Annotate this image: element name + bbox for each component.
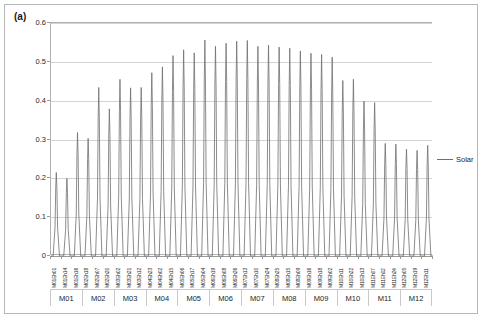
x-axis-hour-label: M10Eh11 <box>339 268 344 288</box>
x-axis-tick-mark <box>167 256 168 259</box>
x-axis-hour-label: M09Eh18 <box>318 268 323 288</box>
x-axis-tick-mark <box>241 256 242 259</box>
x-axis-hour-label: M05Eh17 <box>190 268 195 288</box>
x-axis-tick-mark <box>199 256 200 259</box>
x-axis-hour-label: M06Eh26 <box>233 268 238 288</box>
month-group-m12: M12 <box>400 290 432 306</box>
x-axis-tick-mark <box>230 256 231 259</box>
y-axis-tick-label: 0.5 <box>36 56 46 65</box>
x-axis-hour-label: M10Eh22 <box>349 268 354 288</box>
x-axis-hour-label: M02Eh20 <box>105 268 110 288</box>
x-axis-hour-label: M02Eh18 <box>84 268 89 288</box>
month-group-label: M03 <box>123 294 138 303</box>
y-axis-tick-label: 0.3 <box>36 134 46 143</box>
x-axis-tick-mark <box>252 256 253 259</box>
x-axis-hour-label: M04Eh23 <box>148 268 153 288</box>
month-group-label: M01 <box>59 294 74 303</box>
x-axis-hour-label: M09Eh16 <box>307 268 312 288</box>
x-axis-hour-label: M01Eh01 <box>52 268 57 288</box>
x-axis-tick-mark <box>209 256 210 259</box>
x-axis-tick-mark <box>294 256 295 259</box>
x-axis-tick-mark <box>432 256 433 259</box>
x-axis-hour-label: M12Eh11 <box>424 268 429 288</box>
x-axis-hour-label: M11Eh07 <box>371 268 376 288</box>
x-axis-tick-mark <box>146 256 147 259</box>
month-group-label: M10 <box>346 294 361 303</box>
x-axis-hour-label: M01Eh14 <box>63 268 68 288</box>
month-group-label: M08 <box>282 294 297 303</box>
month-group-m07: M07 <box>241 290 273 306</box>
x-axis-tick-mark <box>177 256 178 259</box>
x-axis-hour-label: M06Eh19 <box>211 268 216 288</box>
x-axis-tick-mark <box>283 256 284 259</box>
month-group-m06: M06 <box>209 290 241 306</box>
x-axis-tick-mark <box>220 256 221 259</box>
x-axis-tick-mark <box>188 256 189 259</box>
month-group-m01: M01 <box>50 290 82 306</box>
x-axis-hour-label: M10Eh13 <box>360 268 365 288</box>
x-axis-tick-mark <box>135 256 136 259</box>
x-axis-hour-labels: M01Eh01M01Eh14M01Eh16M02Eh18M02Eh07M02Eh… <box>50 256 432 288</box>
x-axis-hour-label: M03Eh02 <box>116 268 121 288</box>
x-axis-tick-mark <box>50 256 51 259</box>
x-axis-hour-label: M04Eh15 <box>169 268 174 288</box>
x-axis-tick-mark <box>114 256 115 259</box>
x-axis-hour-label: M08Eh09 <box>296 268 301 288</box>
x-axis-tick-mark <box>103 256 104 259</box>
x-axis-hour-label: M06Eh08 <box>222 268 227 288</box>
month-group-label: M12 <box>409 294 424 303</box>
x-axis-tick-mark <box>92 256 93 259</box>
x-axis-hour-label: M03Eh12 <box>137 268 142 288</box>
x-axis-hour-label: M12Eh19 <box>413 268 418 288</box>
figure-container: (a) 00.10.20.30.40.50.6 M01Eh01M01Eh14M0… <box>0 0 484 320</box>
x-axis-tick-mark <box>82 256 83 259</box>
x-axis-tick-mark <box>156 256 157 259</box>
month-group-m09: M09 <box>305 290 337 306</box>
panel-label: (a) <box>14 11 26 22</box>
month-group-m11: M11 <box>368 290 400 306</box>
x-axis-month-groups: M01M02M03M04M05M06M07M08M09M10M11M12 <box>50 289 432 306</box>
x-axis-tick-mark <box>379 256 380 259</box>
solar-line-path <box>51 40 433 256</box>
x-axis-tick-mark <box>315 256 316 259</box>
x-axis-hour-label: M11Eh02 <box>381 268 386 288</box>
x-axis-hour-label: M03Eh21 <box>127 268 132 288</box>
x-axis-tick-mark <box>326 256 327 259</box>
x-axis-tick-mark <box>347 256 348 259</box>
month-group-label: M05 <box>186 294 201 303</box>
y-axis-tick-label: 0.6 <box>36 18 46 27</box>
x-axis-hour-label: M01Eh16 <box>74 268 79 288</box>
month-group-m10: M10 <box>337 290 369 306</box>
x-axis-tick-mark <box>411 256 412 259</box>
x-axis-tick-mark <box>61 256 62 259</box>
x-axis-hour-label: M12Eh05 <box>402 268 407 288</box>
month-group-label: M07 <box>250 294 265 303</box>
y-axis-tick-label: 0 <box>42 251 46 260</box>
x-axis-hour-label: M07Eh10 <box>254 268 259 288</box>
solar-series-line <box>51 23 433 256</box>
legend-line-swatch <box>437 159 453 160</box>
y-axis-tick-label: 0.2 <box>36 173 46 182</box>
x-axis-hour-label: M08Eh25 <box>275 268 280 288</box>
x-axis-tick-mark <box>273 256 274 259</box>
x-axis-tick-mark <box>358 256 359 259</box>
x-axis-tick-mark <box>305 256 306 259</box>
x-axis-hour-label: M11Eh24 <box>392 268 397 288</box>
x-axis-tick-mark <box>421 256 422 259</box>
month-group-m02: M02 <box>82 290 114 306</box>
x-axis-tick-mark <box>390 256 391 259</box>
plot-area <box>50 22 432 255</box>
x-axis-hour-label: M05Eh04 <box>201 268 206 288</box>
legend-series-label: Solar <box>456 155 474 164</box>
month-group-m05: M05 <box>177 290 209 306</box>
x-axis-tick-mark <box>124 256 125 259</box>
y-axis-tick-label: 0.4 <box>36 95 46 104</box>
month-group-label: M06 <box>218 294 233 303</box>
month-group-label: M02 <box>91 294 106 303</box>
x-axis-tick-mark <box>337 256 338 259</box>
x-axis-hour-label: M02Eh07 <box>95 268 100 288</box>
x-axis-hour-label: M07Eh24 <box>265 268 270 288</box>
x-axis-hour-label: M08Eh15 <box>286 268 291 288</box>
x-axis-hour-label: M09Eh02 <box>328 268 333 288</box>
month-group-label: M11 <box>378 294 392 303</box>
